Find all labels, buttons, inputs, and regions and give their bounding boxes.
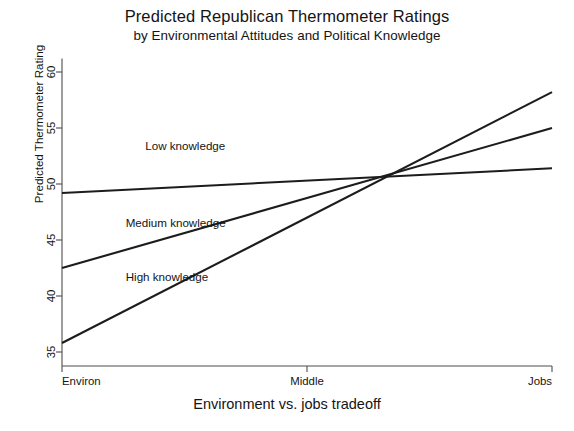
x-tick-label: Jobs xyxy=(528,375,552,387)
y-tick-label: 45 xyxy=(45,234,57,247)
series-label-1: Medium knowledge xyxy=(126,216,226,229)
series-label-2: High knowledge xyxy=(126,270,209,283)
y-tick-label: 55 xyxy=(45,122,57,135)
x-axis-title: Environment vs. jobs tradeoff xyxy=(0,396,574,412)
series-label-0: Low knowledge xyxy=(145,139,225,152)
y-tick-label: 35 xyxy=(45,346,57,359)
x-tick-label: Middle xyxy=(290,375,324,387)
x-tick-label: Environ xyxy=(62,375,101,387)
series-line-1 xyxy=(62,128,552,268)
y-tick-label: 50 xyxy=(45,178,57,191)
chart-figure: Predicted Republican Thermometer Ratings… xyxy=(0,0,574,431)
y-tick-label: 60 xyxy=(45,66,57,79)
series-line-0 xyxy=(62,168,552,193)
plot-area: 354045505560EnvironMiddleJobsLow knowled… xyxy=(0,0,574,431)
y-tick-label: 40 xyxy=(45,290,57,303)
